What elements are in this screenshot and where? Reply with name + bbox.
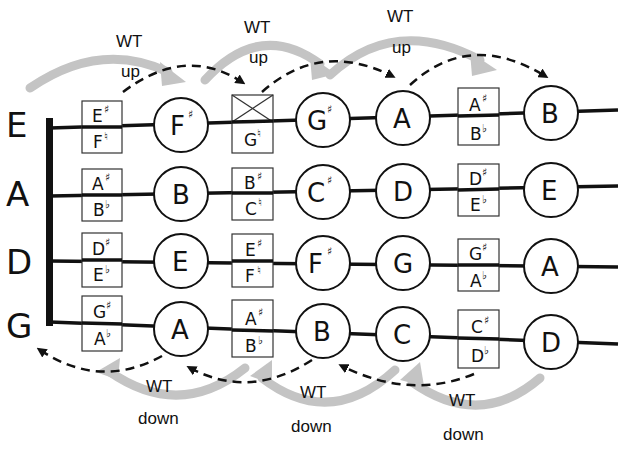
svg-text:up: up (249, 48, 268, 67)
note-circle: D (376, 164, 430, 218)
svg-text:♯: ♯ (257, 237, 262, 250)
svg-text:E: E (92, 106, 103, 126)
svg-text:B: B (244, 173, 256, 193)
svg-text:F: F (170, 111, 185, 141)
note-circle: B (524, 86, 578, 140)
string-row-a: A ♯ B ♭ B B ♯ C ♮ C ♯ D D (82, 163, 578, 221)
svg-text:E: E (470, 195, 481, 215)
svg-text:♯: ♯ (105, 236, 110, 249)
svg-text:A: A (469, 95, 481, 115)
svg-text:B: B (172, 180, 190, 210)
svg-text:WT: WT (300, 383, 326, 402)
svg-text:♭: ♭ (105, 263, 110, 276)
svg-text:♯: ♯ (188, 108, 193, 121)
svg-text:E: E (93, 265, 104, 285)
note-circle: B (154, 167, 208, 221)
svg-text:A: A (470, 271, 482, 291)
svg-text:A: A (171, 315, 189, 345)
svg-text:♯: ♯ (482, 166, 487, 179)
svg-text:F: F (93, 132, 103, 152)
svg-text:♭: ♭ (482, 269, 487, 282)
svg-text:D: D (92, 239, 105, 259)
string-label-d: D (6, 242, 32, 282)
svg-text:G: G (307, 106, 327, 136)
note-circle: F ♯ (296, 236, 350, 290)
svg-text:♭: ♭ (106, 327, 111, 340)
note-circle: A (376, 91, 430, 145)
svg-text:♯: ♯ (327, 174, 332, 187)
svg-text:A: A (541, 252, 559, 282)
note-circle: A (524, 239, 578, 293)
svg-text:F: F (308, 249, 323, 279)
note-box-crossed: G ♮ (232, 95, 273, 153)
svg-text:B: B (313, 317, 331, 347)
svg-text:♮: ♮ (104, 130, 108, 143)
svg-text:♯: ♯ (482, 241, 487, 254)
svg-text:D: D (471, 346, 484, 366)
svg-text:♯: ♯ (484, 314, 489, 327)
svg-text:♭: ♭ (484, 344, 489, 357)
svg-text:D: D (393, 177, 413, 207)
svg-text:♯: ♯ (104, 103, 109, 116)
note-circle: A (154, 302, 208, 356)
svg-text:B: B (93, 200, 105, 220)
svg-text:A: A (92, 174, 104, 194)
svg-text:♮: ♮ (257, 264, 261, 277)
note-circle: B (296, 304, 350, 358)
svg-text:D: D (541, 328, 561, 358)
string-label-g: G (6, 306, 32, 346)
svg-text:G: G (393, 249, 413, 279)
svg-text:WT: WT (116, 32, 142, 51)
whole-tone-diagram: E A D G E ♯ F ♮ F ♯ G ♮ (0, 0, 630, 449)
svg-text:C: C (393, 320, 411, 350)
note-box: B ♯ C ♮ (232, 168, 273, 220)
note-box: D ♯ E ♭ (82, 233, 122, 287)
svg-text:up: up (121, 62, 140, 81)
note-circle: D (524, 315, 578, 369)
note-box: A ♯ B ♭ (232, 300, 273, 357)
svg-text:E: E (172, 247, 188, 277)
note-circle: E (524, 163, 578, 217)
note-box: D ♯ E ♭ (458, 164, 499, 216)
svg-text:G: G (244, 130, 257, 150)
annotations-down: WT down WT down WT down (138, 377, 484, 444)
svg-text:G: G (469, 244, 482, 264)
svg-text:WT: WT (146, 377, 172, 396)
svg-text:♯: ♯ (105, 171, 110, 184)
note-box: A ♯ B ♭ (458, 88, 499, 145)
note-box: G ♯ A ♭ (82, 296, 122, 351)
svg-text:WT: WT (387, 7, 413, 26)
svg-text:B: B (470, 124, 482, 144)
svg-text:E: E (245, 240, 256, 260)
string-row-e: E ♯ F ♮ F ♯ G ♮ G ♯ A (82, 86, 578, 153)
note-circle: C ♯ (296, 165, 350, 219)
svg-text:♯: ♯ (106, 299, 111, 312)
svg-text:down: down (291, 417, 332, 436)
svg-text:down: down (443, 425, 484, 444)
svg-text:♮: ♮ (257, 127, 261, 140)
svg-text:F: F (245, 266, 255, 286)
svg-text:A: A (94, 329, 106, 349)
svg-text:♯: ♯ (257, 170, 262, 183)
svg-text:A: A (393, 104, 411, 134)
note-box: A ♯ B ♭ (82, 169, 122, 221)
string-label-e: E (6, 105, 27, 145)
note-circle: E (154, 234, 208, 288)
svg-text:A: A (245, 309, 257, 329)
svg-text:♮: ♮ (258, 196, 262, 209)
svg-text:♯: ♯ (258, 306, 263, 319)
nut-bar (46, 118, 53, 326)
note-box: C ♯ D ♭ (458, 310, 499, 368)
svg-text:WT: WT (449, 391, 475, 410)
svg-text:C: C (245, 199, 257, 219)
note-box: G ♯ A ♭ (458, 239, 499, 291)
svg-text:C: C (307, 178, 325, 208)
svg-text:♯: ♯ (327, 103, 332, 116)
note-box: E ♯ F ♮ (232, 234, 273, 287)
note-circle: G ♯ (296, 93, 350, 147)
svg-text:D: D (469, 169, 482, 189)
svg-text:G: G (93, 302, 106, 322)
svg-text:♯: ♯ (327, 245, 332, 258)
svg-text:B: B (541, 99, 559, 129)
svg-text:E: E (541, 176, 557, 206)
